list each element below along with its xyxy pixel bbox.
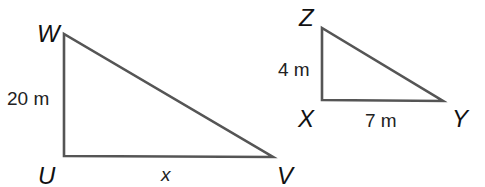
side-label-zx: 4 m [278,59,310,80]
side-label-uv: x [160,164,172,185]
triangle-xyz-outline [322,28,443,101]
vertex-label-x: X [297,105,315,132]
vertex-label-w: W [37,20,62,47]
vertex-label-y: Y [452,105,470,132]
triangle-uvw: W U V 20 m x [7,20,295,187]
similar-triangles-diagram: W U V 20 m x Z X Y 4 m 7 m [0,0,485,187]
side-label-wu: 20 m [7,88,49,109]
vertex-label-z: Z [298,4,315,31]
vertex-label-v: V [277,162,295,187]
vertex-label-u: U [38,162,56,187]
triangle-xyz: Z X Y 4 m 7 m [278,4,470,132]
triangle-uvw-outline [64,34,273,157]
side-label-xy: 7 m [365,110,397,131]
